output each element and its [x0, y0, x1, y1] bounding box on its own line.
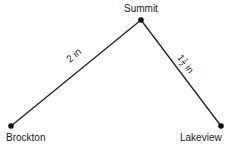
node-lakeview-dot	[218, 123, 224, 129]
route-lines	[0, 0, 232, 151]
edge-brockton-summit	[11, 20, 141, 126]
map-diagram: Summit Brockton Lakeview 2 in 112 in	[0, 0, 232, 151]
label-brockton: Brockton	[6, 132, 45, 143]
label-lakeview: Lakeview	[180, 132, 222, 143]
label-summit: Summit	[124, 3, 158, 14]
node-brockton-dot	[8, 123, 14, 129]
node-summit-dot	[138, 17, 144, 23]
edge-summit-lakeview	[141, 20, 221, 126]
